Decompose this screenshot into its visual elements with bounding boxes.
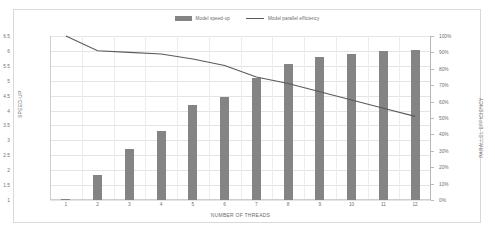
y-axis-right-tick-label: 70% bbox=[439, 83, 449, 88]
x-axis-ticks: 123456789101112 bbox=[50, 202, 431, 212]
x-axis-tick-label-12: 12 bbox=[412, 202, 417, 207]
y-axis-left-tick-label: 6 bbox=[0, 48, 10, 53]
y-axis-left-tick-label: 1 bbox=[0, 198, 10, 203]
legend-label-model-parallel-efficiency: Model parallel efficiency bbox=[268, 16, 319, 21]
y-axis-right-tick-mark bbox=[431, 52, 434, 53]
y-axis-right-tick-mark bbox=[431, 184, 434, 185]
x-axis-tick-label-1: 1 bbox=[65, 202, 68, 207]
x-axis-tick-label-5: 5 bbox=[192, 202, 195, 207]
y-axis-left-tick-label: 6.5 bbox=[0, 34, 10, 39]
y-axis-left-title: SPEED-UP bbox=[17, 90, 23, 118]
y-axis-right-tick-mark bbox=[431, 167, 434, 168]
y-axis-left-tick-label: 2.5 bbox=[0, 153, 10, 158]
y-axis-right-ticks: 100%90%80%70%60%50%40%30%20%10%0% bbox=[431, 36, 483, 200]
bar-swatch-icon bbox=[175, 16, 192, 21]
x-axis-tick-label-4: 4 bbox=[160, 202, 163, 207]
legend-item-model-speed-up[interactable]: Model speed-up bbox=[175, 16, 230, 21]
x-axis-tick-label-2: 2 bbox=[96, 202, 99, 207]
y-axis-left-tick-label: 4 bbox=[0, 108, 10, 113]
y-axis-left-tick-label: 5.5 bbox=[0, 63, 10, 68]
y-axis-right-tick-label: 50% bbox=[439, 116, 449, 121]
y-axis-right-tick-mark bbox=[431, 36, 434, 37]
line-swatch-icon bbox=[246, 18, 264, 19]
x-axis-tick-label-10: 10 bbox=[349, 202, 354, 207]
y-axis-right-tick-mark bbox=[431, 85, 434, 86]
legend-label-model-speed-up: Model speed-up bbox=[196, 16, 230, 21]
y-axis-right-tick-mark bbox=[431, 134, 434, 135]
y-axis-right-tick-label: 90% bbox=[439, 50, 449, 55]
y-axis-left-tick-label: 1.5 bbox=[0, 183, 10, 188]
y-axis-left-tick-label: 3.5 bbox=[0, 123, 10, 128]
y-axis-right-tick-label: 40% bbox=[439, 132, 449, 137]
y-axis-right-title: PARALLEL EFFICIENCY bbox=[478, 97, 484, 158]
x-axis-tick-label-3: 3 bbox=[128, 202, 131, 207]
chart-container: Model speed-up Model parallel efficiency… bbox=[13, 9, 481, 223]
x-axis-tick-label-6: 6 bbox=[223, 202, 226, 207]
y-axis-left-tick-label: 5 bbox=[0, 78, 10, 83]
x-axis-title: NUMBER OF THREADS bbox=[50, 212, 431, 218]
x-axis-tick-label-11: 11 bbox=[381, 202, 386, 207]
y-axis-right-tick-label: 20% bbox=[439, 165, 449, 170]
y-axis-right-tick-mark bbox=[431, 118, 434, 119]
x-axis-tick-label-7: 7 bbox=[255, 202, 258, 207]
y-axis-left-tick-label: 3 bbox=[0, 138, 10, 143]
y-axis-right-tick-mark bbox=[431, 151, 434, 152]
y-axis-right-tick-label: 30% bbox=[439, 148, 449, 153]
y-axis-left-tick-label: 4.5 bbox=[0, 93, 10, 98]
y-axis-right-tick-label: 80% bbox=[439, 66, 449, 71]
y-axis-right-tick-label: 10% bbox=[439, 181, 449, 186]
x-axis-tick-label-9: 9 bbox=[319, 202, 322, 207]
legend-item-model-parallel-efficiency[interactable]: Model parallel efficiency bbox=[246, 16, 319, 21]
y-axis-left-ticks: 6.565.554.543.532.521.51 bbox=[14, 36, 431, 200]
y-axis-right-tick-mark bbox=[431, 102, 434, 103]
gridline-horizontal bbox=[50, 200, 431, 201]
y-axis-right-tick-label: 60% bbox=[439, 99, 449, 104]
x-axis-tick-label-8: 8 bbox=[287, 202, 290, 207]
y-axis-left-tick-label: 2 bbox=[0, 168, 10, 173]
chart-legend: Model speed-up Model parallel efficiency bbox=[14, 16, 480, 21]
y-axis-right-tick-mark bbox=[431, 69, 434, 70]
y-axis-right-tick-label: 0% bbox=[439, 198, 446, 203]
y-axis-right-tick-label: 100% bbox=[439, 34, 451, 39]
y-axis-right-tick-mark bbox=[431, 200, 434, 201]
